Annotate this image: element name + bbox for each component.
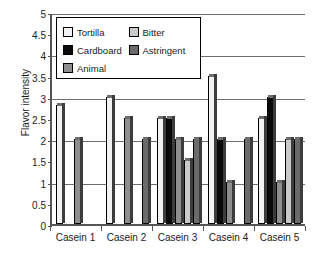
y-tick-mark (48, 56, 52, 57)
chart-legend: Tortilla Bitter Cardboard Astringent Ani… (56, 17, 201, 79)
legend-swatch-animal (63, 63, 73, 73)
legend-item-bitter: Bitter (129, 27, 195, 38)
y-tick-mark (48, 141, 52, 142)
x-tick-label: Casein 4 (203, 232, 254, 243)
y-tick-mark (48, 99, 52, 100)
legend-item-cardboard: Cardboard (63, 45, 129, 56)
bar-group (204, 14, 255, 224)
y-tick-label: 1.5 (32, 157, 46, 168)
y-tick-label: 2 (40, 136, 46, 147)
bar-cardboard-casein-4 (217, 139, 224, 224)
y-tick-mark (48, 205, 52, 206)
legend-label-tortilla: Tortilla (77, 27, 104, 38)
x-tick-mark (254, 226, 255, 231)
x-tick-mark (305, 226, 306, 231)
bar-tortilla-casein-5 (258, 118, 265, 224)
bar-cardboard-casein-3 (166, 118, 173, 224)
legend-label-astringent: Astringent (143, 45, 186, 56)
y-tick-mark (48, 14, 52, 15)
x-tick-mark (50, 226, 51, 231)
y-tick-mark (48, 35, 52, 36)
legend-swatch-astringent (129, 45, 139, 55)
y-axis-tick-labels: 54.543.532.521.510.50 (22, 14, 46, 226)
legend-row: Cardboard Astringent (63, 41, 194, 59)
y-tick-label: 1 (40, 178, 46, 189)
bar-astringent-casein-3 (193, 139, 200, 224)
legend-item-astringent: Astringent (129, 45, 195, 56)
legend-label-animal: Animal (77, 63, 106, 74)
bar-cardboard-casein-5 (267, 97, 274, 224)
y-tick-label: 0.5 (32, 199, 46, 210)
bar-tortilla-casein-3 (157, 118, 164, 224)
x-tick-label: Casein 3 (152, 232, 203, 243)
legend-label-bitter: Bitter (143, 27, 165, 38)
y-tick-mark (48, 78, 52, 79)
y-tick-mark (48, 120, 52, 121)
legend-row: Tortilla Bitter (63, 23, 194, 41)
bar-animal-casein-3 (175, 139, 182, 224)
legend-item-animal: Animal (63, 63, 194, 74)
y-tick-mark (48, 162, 52, 163)
x-tick-mark (101, 226, 102, 231)
bar-animal-casein-5 (276, 182, 283, 224)
legend-row: Animal (63, 59, 194, 77)
legend-swatch-bitter (129, 27, 139, 37)
legend-item-tortilla: Tortilla (63, 27, 129, 38)
y-tick-mark (48, 184, 52, 185)
x-tick-mark (152, 226, 153, 231)
bar-tortilla-casein-1 (56, 105, 63, 224)
bar-astringent-casein-5 (294, 139, 301, 224)
y-tick-label: 5 (40, 9, 46, 20)
x-tick-label: Casein 5 (254, 232, 305, 243)
bar-animal-casein-1 (74, 139, 81, 224)
x-tick-mark (203, 226, 204, 231)
legend-swatch-tortilla (63, 27, 73, 37)
bar-bitter-casein-3 (184, 160, 191, 224)
legend-swatch-cardboard (63, 45, 73, 55)
y-tick-label: 4.5 (32, 30, 46, 41)
x-tick-label: Casein 2 (101, 232, 152, 243)
x-tick-label: Casein 1 (50, 232, 101, 243)
y-tick-label: 0 (40, 221, 46, 232)
y-tick-label: 4 (40, 51, 46, 62)
y-tick-label: 3.5 (32, 72, 46, 83)
bar-animal-casein-4 (226, 182, 233, 224)
flavor-intensity-bar-chart: Flavor intensity 54.543.532.521.510.50 C… (0, 0, 315, 262)
bar-astringent-casein-4 (244, 139, 251, 224)
y-tick-label: 3 (40, 93, 46, 104)
y-tick-label: 2.5 (32, 115, 46, 126)
bar-tortilla-casein-4 (208, 76, 215, 224)
bar-bitter-casein-5 (285, 139, 292, 224)
bar-tortilla-casein-2 (106, 97, 113, 224)
bar-group (254, 14, 305, 224)
bar-astringent-casein-2 (142, 139, 149, 224)
x-axis-tick-labels: Casein 1Casein 2Casein 3Casein 4Casein 5 (50, 232, 305, 243)
legend-label-cardboard: Cardboard (77, 45, 122, 56)
bar-animal-casein-2 (124, 118, 131, 224)
